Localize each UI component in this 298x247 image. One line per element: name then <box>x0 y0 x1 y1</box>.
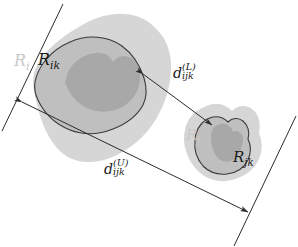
lower-distance-sub: ijk <box>182 71 196 80</box>
region-j-label: Rj <box>186 126 200 146</box>
region-i-label: Ri <box>14 51 30 73</box>
region-ik-label: Rik <box>38 50 60 72</box>
region-j-label-sub: j <box>197 135 200 146</box>
region-i-label-base: R <box>14 51 26 70</box>
upper-distance-scripts: (U)ijk <box>113 158 128 176</box>
upper-distance-sub: ijk <box>113 167 128 176</box>
region-j-label-base: R <box>186 126 197 144</box>
region-jk-label-base: R <box>233 148 244 166</box>
region-i-label-sub: i <box>26 60 29 73</box>
lower-distance-scripts: (L)ijk <box>182 62 196 80</box>
region-jk-label: Rjk <box>233 148 254 168</box>
diagram-canvas <box>0 0 298 247</box>
upper-distance-base: d <box>104 161 113 177</box>
lower-distance-base: d <box>173 65 182 81</box>
region-ik-label-sub: ik <box>50 59 60 72</box>
lower-distance-label: d(L)ijk <box>173 62 196 81</box>
upper-distance-label: d(U)ijk <box>104 158 128 177</box>
region-distance-figure: Ri Rik Rj Rjk d(L)ijk d(U)ijk <box>0 0 298 247</box>
region-jk-label-sub: jk <box>244 157 253 168</box>
region-ik-label-base: R <box>38 50 50 69</box>
